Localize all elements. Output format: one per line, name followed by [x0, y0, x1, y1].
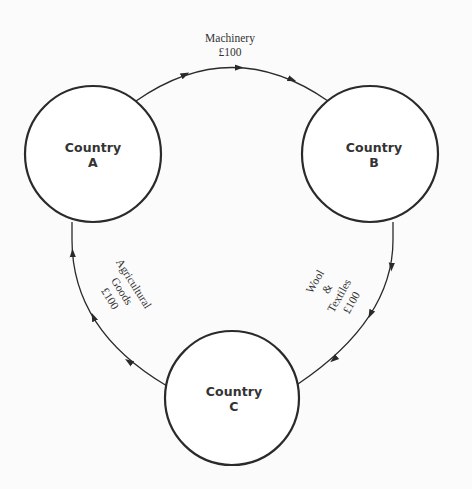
- country-b-label-line2: B: [324, 155, 424, 170]
- country-a-label-line1: Country: [43, 140, 143, 155]
- country-b-label-line1: Country: [324, 140, 424, 155]
- country-c-label: Country C: [184, 384, 284, 414]
- country-c-label-line1: Country: [184, 384, 284, 399]
- trade-flow-diagram: Country A Country B Country C Machinery …: [0, 0, 472, 489]
- flow-label-machinery-line2: £100: [205, 45, 255, 59]
- arrow-icon: [128, 361, 140, 369]
- country-a-label-line2: A: [43, 155, 143, 170]
- country-a-label: Country A: [43, 140, 143, 170]
- country-b-label: Country B: [324, 140, 424, 170]
- diagram-graphics: [0, 0, 472, 489]
- flow-label-machinery-line1: Machinery: [205, 31, 255, 45]
- country-c-label-line2: C: [184, 399, 284, 414]
- flow-label-machinery: Machinery £100: [205, 31, 255, 59]
- flow-arc-a-to-b: [136, 68, 328, 102]
